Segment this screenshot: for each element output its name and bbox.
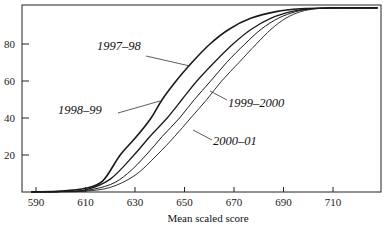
plot-frame — [22, 5, 381, 192]
series-label: 2000–01 — [213, 134, 257, 148]
x-tick-label: 630 — [127, 196, 144, 208]
series-line-1998-99 — [31, 8, 378, 192]
x-tick-label: 590 — [28, 196, 45, 208]
series-line-1999-2000 — [31, 8, 378, 192]
series-label: 1999–2000 — [228, 96, 285, 110]
y-tick-label: 20 — [4, 149, 16, 161]
y-tick-label: 80 — [4, 38, 16, 50]
leader-line — [146, 56, 190, 66]
x-tick-label: 710 — [325, 196, 342, 208]
series-line-1997-98 — [31, 8, 378, 192]
y-axis: 20406080 — [4, 38, 29, 161]
y-tick-label: 60 — [4, 75, 16, 87]
series-line-2000-01 — [31, 8, 378, 192]
x-tick-label: 690 — [275, 196, 292, 208]
leader-line — [193, 130, 212, 140]
series-labels: 1997–981998–991999–20002000–01 — [58, 39, 285, 148]
series-lines — [31, 8, 378, 192]
series-label: 1997–98 — [97, 39, 142, 53]
x-tick-label: 650 — [176, 196, 193, 208]
x-tick-label: 670 — [226, 196, 243, 208]
series-label: 1998–99 — [58, 103, 103, 117]
x-axis-title: Mean scaled score — [167, 212, 248, 224]
line-chart: 20406080 590610630650670690710 1997–9819… — [0, 0, 386, 229]
x-tick-label: 610 — [77, 196, 94, 208]
leader-line — [118, 101, 160, 113]
leader-line — [210, 91, 227, 100]
y-tick-label: 40 — [4, 112, 16, 124]
